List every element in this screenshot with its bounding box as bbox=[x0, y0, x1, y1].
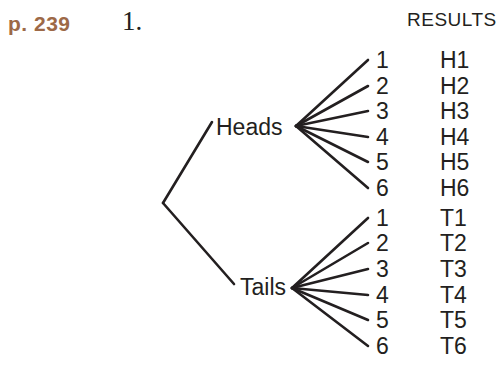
outcome-tails-1: 1 bbox=[376, 207, 389, 230]
branch-tails-2 bbox=[292, 243, 368, 288]
result-t3: T3 bbox=[440, 258, 467, 281]
result-h4: H4 bbox=[440, 126, 469, 149]
result-t5: T5 bbox=[440, 309, 467, 332]
outcome-heads-1: 1 bbox=[376, 49, 389, 72]
outcome-heads-4: 4 bbox=[376, 126, 389, 149]
branch-label-tails: Tails bbox=[240, 276, 286, 299]
branch-tails-6 bbox=[292, 288, 368, 346]
outcome-heads-3: 3 bbox=[376, 100, 389, 123]
outcome-tails-4: 4 bbox=[376, 284, 389, 307]
results-column-header: RESULTS bbox=[407, 10, 497, 29]
page-reference: p. 239 bbox=[8, 13, 71, 34]
outcome-tails-6: 6 bbox=[376, 335, 389, 358]
result-h2: H2 bbox=[440, 75, 469, 98]
result-h5: H5 bbox=[440, 151, 469, 174]
result-t1: T1 bbox=[440, 207, 467, 230]
branch-root-heads bbox=[163, 122, 212, 203]
result-t6: T6 bbox=[440, 335, 467, 358]
tree-branch-lines bbox=[0, 0, 499, 370]
result-h3: H3 bbox=[440, 100, 469, 123]
result-h1: H1 bbox=[440, 49, 469, 72]
result-h6: H6 bbox=[440, 177, 469, 200]
outcome-tails-5: 5 bbox=[376, 309, 389, 332]
branch-heads-3 bbox=[296, 111, 368, 126]
outcome-tails-3: 3 bbox=[376, 258, 389, 281]
outcome-tails-2: 2 bbox=[376, 232, 389, 255]
outcome-heads-2: 2 bbox=[376, 75, 389, 98]
result-t4: T4 bbox=[440, 284, 467, 307]
outcome-heads-5: 5 bbox=[376, 151, 389, 174]
branch-label-heads: Heads bbox=[216, 116, 282, 139]
result-t2: T2 bbox=[440, 232, 467, 255]
branch-root-tails bbox=[163, 203, 234, 284]
tree-diagram-page: p. 239 1. RESULTS Heads Tails 1 2 3 4 5 … bbox=[0, 0, 499, 370]
problem-number: 1. bbox=[122, 8, 142, 35]
outcome-heads-6: 6 bbox=[376, 177, 389, 200]
